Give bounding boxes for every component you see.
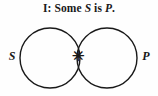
subject-set-label: S (5, 50, 19, 62)
existence-asterisk-icon: ✳ (70, 47, 87, 65)
venn-diagram-figure: I: Some S is P. S P ✳ (0, 0, 158, 96)
predicate-set-label: P (139, 50, 153, 62)
